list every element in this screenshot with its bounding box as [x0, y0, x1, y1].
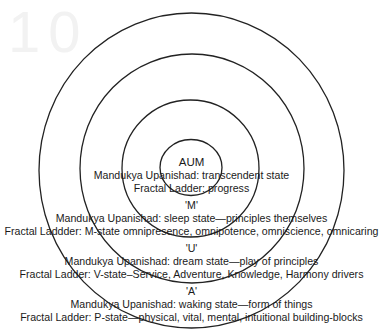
- level-u-title: 'U': [0, 242, 383, 255]
- aum-concentric-diagram: 10 AUM Mandukya Upanishad: transcendent …: [0, 0, 383, 329]
- level-m-fractal: Fractal Laddder: M-state omnipresence, o…: [0, 225, 383, 238]
- level-m-title: 'M': [0, 199, 383, 212]
- level-a-title: 'A': [0, 285, 383, 298]
- level-m-upanishad: Mandukya Upanishad: sleep state—principl…: [0, 212, 383, 225]
- level-a-fractal: Fractal Ladder: P-state—physical, vital,…: [0, 311, 383, 324]
- level-a-upanishad: Mandukya Upanishad: waking state—form of…: [0, 298, 383, 311]
- level-aum-fractal: Fractal Ladder: progress: [0, 182, 383, 195]
- level-u-upanishad: Mandukya Upanishad: dream state—play of …: [0, 255, 383, 268]
- level-aum-title: AUM: [0, 156, 383, 169]
- level-aum-upanishad: Mandukya Upanishad: transcendent state: [0, 169, 383, 182]
- level-u-fractal: Fractal Ladder: V-state–Service, Adventu…: [0, 268, 383, 281]
